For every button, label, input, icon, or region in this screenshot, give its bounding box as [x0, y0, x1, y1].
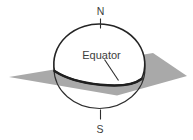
north-label: N: [97, 5, 105, 17]
equator-label: Equator: [82, 49, 121, 61]
equator-diagram: N Equator S: [0, 0, 193, 140]
diagram-svg: N Equator S: [0, 0, 193, 140]
south-label: S: [96, 123, 103, 135]
